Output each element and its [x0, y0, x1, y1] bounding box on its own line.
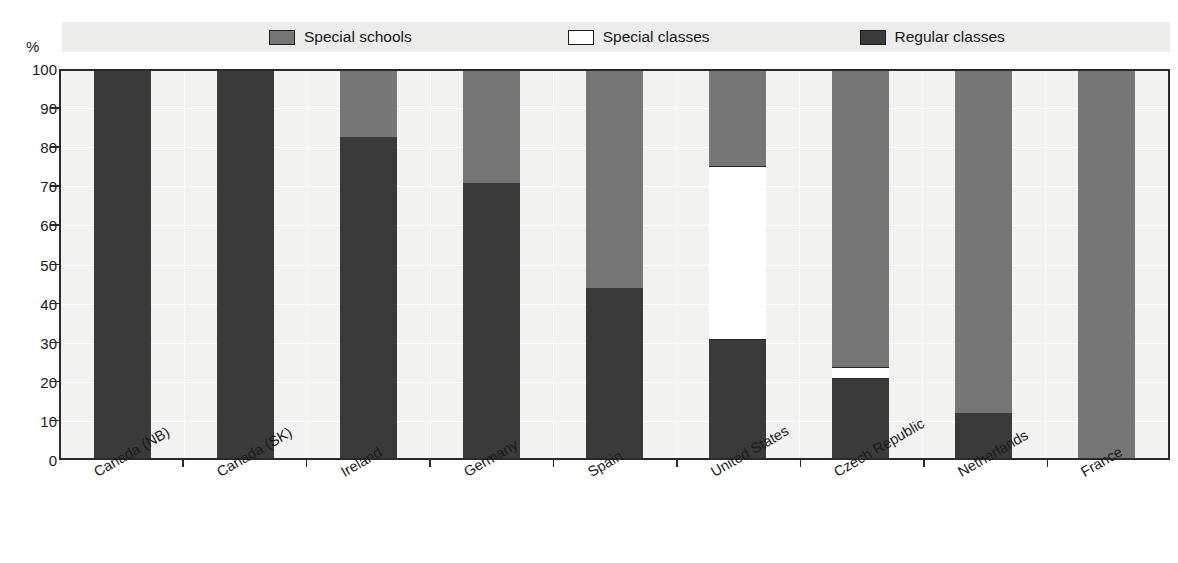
- bar-segment-special-schools[interactable]: [340, 71, 397, 137]
- bar-stack[interactable]: [709, 71, 766, 458]
- x-axis-tick-mark: [429, 460, 431, 467]
- y-axis-tick-mark: [50, 107, 59, 109]
- bar-column[interactable]: [922, 71, 1045, 458]
- y-axis-tick-mark: [50, 224, 59, 226]
- x-axis-tick-mark: [923, 460, 925, 467]
- bar-segment-regular-classes[interactable]: [94, 71, 151, 458]
- y-axis-tick-label: 0: [17, 452, 57, 469]
- x-axis-tick-mark: [676, 460, 678, 467]
- bar-stack[interactable]: [463, 71, 520, 458]
- bar-segment-special-schools[interactable]: [586, 71, 643, 288]
- bar-group: [61, 71, 1168, 458]
- bar-column[interactable]: [61, 71, 184, 458]
- bar-column[interactable]: [307, 71, 430, 458]
- bar-segment-special-schools[interactable]: [709, 71, 766, 166]
- bar-segment-regular-classes[interactable]: [340, 137, 397, 458]
- x-axis-tick-mark: [1047, 460, 1049, 467]
- bar-segment-special-schools[interactable]: [832, 71, 889, 367]
- x-axis-labels: Canada (NB)Canada (SK)IrelandGermanySpai…: [59, 462, 1170, 562]
- bar-column[interactable]: [553, 71, 676, 458]
- plot-area: [59, 69, 1170, 460]
- y-axis-tick-mark: [50, 303, 59, 305]
- x-axis-tick-mark: [182, 460, 184, 467]
- y-axis-tick-label: 100: [17, 61, 57, 78]
- bar-segment-regular-classes[interactable]: [217, 71, 274, 458]
- bar-segment-regular-classes[interactable]: [463, 183, 520, 458]
- y-axis-tick-mark: [50, 381, 59, 383]
- bar-column[interactable]: [1045, 71, 1168, 458]
- bar-segment-special-schools[interactable]: [463, 71, 520, 183]
- bar-column[interactable]: [799, 71, 922, 458]
- y-axis-tick-mark: [50, 342, 59, 344]
- y-axis-tick-mark: [50, 264, 59, 266]
- bar-column[interactable]: [676, 71, 799, 458]
- bar-stack[interactable]: [586, 71, 643, 458]
- y-axis-tick-mark: [50, 146, 59, 148]
- y-axis-tick-mark: [50, 420, 59, 422]
- bar-segment-regular-classes[interactable]: [586, 288, 643, 458]
- x-axis-tick-mark: [553, 460, 555, 467]
- bar-column[interactable]: [430, 71, 553, 458]
- bar-stack[interactable]: [340, 71, 397, 458]
- bar-stack[interactable]: [832, 71, 889, 458]
- x-axis-tick-mark: [800, 460, 802, 467]
- bar-stack[interactable]: [217, 71, 274, 458]
- bar-segment-special-schools[interactable]: [955, 71, 1012, 413]
- chart-plot-wrapper: Canada (NB)Canada (SK)IrelandGermanySpai…: [0, 0, 1178, 563]
- bar-stack[interactable]: [94, 71, 151, 458]
- bar-segment-special-classes[interactable]: [709, 166, 766, 340]
- bar-segment-special-classes[interactable]: [832, 367, 889, 379]
- bar-stack[interactable]: [955, 71, 1012, 458]
- bar-column[interactable]: [184, 71, 307, 458]
- x-axis-tick-mark: [306, 460, 308, 467]
- bar-stack[interactable]: [1078, 71, 1135, 458]
- y-axis-tick-mark: [50, 185, 59, 187]
- bar-segment-special-schools[interactable]: [1078, 71, 1135, 458]
